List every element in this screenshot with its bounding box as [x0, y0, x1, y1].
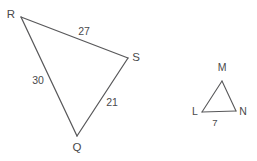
geometry-figure-canvas: R S Q 27 30 21 M L N 7: [0, 0, 257, 161]
vertex-label-m: M: [218, 61, 227, 73]
vertex-label-l: L: [192, 105, 198, 117]
vertex-label-s: S: [132, 51, 140, 63]
vertex-label-r: R: [7, 8, 15, 20]
side-length-label-rq: 30: [32, 74, 44, 86]
side-length-label-rs: 27: [78, 25, 90, 37]
side-length-label-ln: 7: [212, 117, 217, 128]
vertex-label-q: Q: [73, 141, 82, 153]
vertex-label-n: N: [239, 105, 247, 117]
side-length-label-sq: 21: [106, 96, 118, 108]
